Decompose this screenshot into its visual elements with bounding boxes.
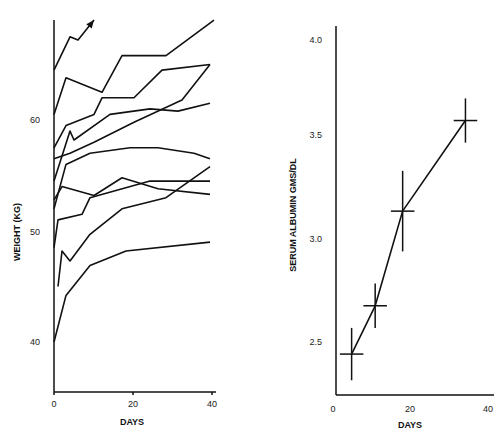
albumin-series (340, 98, 477, 380)
weight-line (58, 167, 210, 287)
y-tick-label: 60 (30, 115, 40, 125)
weight-chart: 60504002040 DAYS WEIGHT (KG) (12, 20, 217, 427)
albumin-line (352, 121, 466, 355)
x-tick-label: 0 (51, 399, 56, 409)
figure: 60504002040 DAYS WEIGHT (KG) 4.03.53.02.… (0, 0, 503, 439)
albumin-ylabel: SERUM ALBUMIN GMS/DL (288, 158, 298, 272)
x-tick-label: 20 (405, 404, 415, 414)
y-tick-label: 40 (30, 337, 40, 347)
y-tick-label: 3.5 (309, 130, 322, 140)
y-tick-label: 3.0 (309, 234, 322, 244)
x-tick-label: 0 (330, 404, 335, 414)
weight-xlabel: DAYS (120, 417, 144, 427)
y-tick-label: 50 (30, 227, 40, 237)
weight-line (54, 65, 210, 148)
weight-ylabel: WEIGHT (KG) (12, 203, 22, 261)
weight-line (54, 103, 210, 181)
albumin-xlabel: DAYS (398, 420, 422, 430)
x-tick-label: 40 (207, 399, 217, 409)
weight-line (54, 148, 210, 209)
weight-line (54, 20, 94, 70)
weight-series (54, 20, 214, 342)
albumin-ticks: 4.03.53.02.502040 (309, 35, 493, 414)
y-tick-label: 2.5 (309, 337, 322, 347)
albumin-chart: 4.03.53.02.502040 DAYS SERUM ALBUMIN GMS… (288, 26, 494, 430)
y-tick-label: 4.0 (309, 35, 322, 45)
weight-ticks: 60504002040 (30, 115, 217, 409)
weight-line (54, 242, 210, 342)
x-tick-label: 20 (128, 399, 138, 409)
x-tick-label: 40 (483, 404, 493, 414)
